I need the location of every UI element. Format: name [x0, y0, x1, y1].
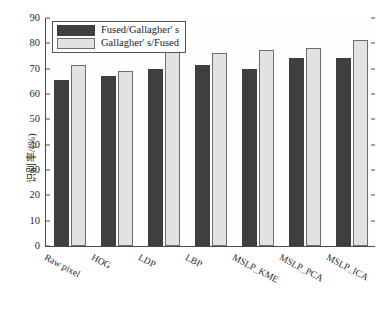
y-tick-label: 10 [30, 215, 47, 226]
bar [54, 80, 69, 246]
legend-item-0: Fused/Gallagher' s [57, 25, 179, 36]
x-tick-label: HOG [89, 253, 112, 271]
y-tick-mark [46, 18, 50, 19]
bar-group [242, 18, 274, 246]
bar [212, 53, 227, 246]
legend: Fused/Gallagher' s Gallagher' s/Fused [52, 21, 186, 53]
x-tick-label: MSLP_KME [230, 253, 279, 285]
y-tick-label: 90 [30, 13, 47, 24]
y-tick-mark-right [371, 68, 375, 69]
bar-chart-figure: 识别率/(%) 0102030405060708090 Fused/Gallag… [0, 0, 389, 315]
legend-swatch-fused-gallagher [57, 25, 95, 36]
x-tick-label: LBP [183, 253, 203, 270]
bar [101, 76, 116, 246]
y-tick-mark [46, 43, 50, 44]
bar-group [336, 18, 368, 246]
bar [148, 69, 163, 246]
y-tick-mark-right [371, 170, 375, 171]
bar [306, 48, 321, 246]
y-tick-label: 40 [30, 139, 47, 150]
y-tick-label: 70 [30, 63, 47, 74]
y-tick-label: 50 [30, 114, 47, 125]
y-tick-mark-right [371, 195, 375, 196]
y-tick-mark-right [371, 94, 375, 95]
bar [195, 65, 210, 246]
y-tick-mark-right [371, 220, 375, 221]
bar [289, 58, 304, 246]
y-tick-mark-right [371, 18, 375, 19]
legend-label-gallagher-fused: Gallagher' s/Fused [101, 38, 179, 49]
legend-item-1: Gallagher' s/Fused [57, 38, 179, 49]
bar [242, 69, 257, 246]
y-tick-mark [46, 119, 50, 120]
y-tick-label: 80 [30, 38, 47, 49]
y-tick-mark [46, 144, 50, 145]
y-tick-mark [46, 94, 50, 95]
y-tick-mark [46, 220, 50, 221]
y-tick-mark-right [371, 144, 375, 145]
y-tick-label: 20 [30, 190, 47, 201]
y-tick-mark [46, 68, 50, 69]
y-tick-label: 30 [30, 165, 47, 176]
y-tick-mark-right [371, 119, 375, 120]
x-tick-label: MSLP_PCA [277, 253, 324, 284]
bar [353, 40, 368, 246]
y-tick-mark [46, 170, 50, 171]
x-tick-label: MSLP_ICA [324, 253, 369, 283]
bar [259, 50, 274, 246]
bar [118, 71, 133, 246]
x-axis-labels: Raw pixelHOGLDPLBPMSLP_KMEMSLP_PCAMSLP_I… [45, 249, 375, 315]
y-tick-mark [46, 195, 50, 196]
y-tick-mark [46, 246, 50, 247]
x-tick-label: Raw pixel [42, 253, 81, 280]
y-tick-label: 60 [30, 89, 47, 100]
bar-group [195, 18, 227, 246]
bar [336, 58, 351, 246]
legend-label-fused-gallagher: Fused/Gallagher' s [101, 25, 179, 36]
bar [71, 65, 86, 246]
bar [165, 49, 180, 246]
legend-swatch-gallagher-fused [57, 38, 95, 49]
y-tick-mark-right [371, 43, 375, 44]
x-tick-label: LDP [136, 253, 156, 270]
bar-group [289, 18, 321, 246]
